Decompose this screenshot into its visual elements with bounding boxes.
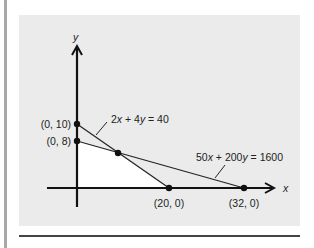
point-20-0 xyxy=(166,185,172,191)
point-0-8 xyxy=(74,138,80,144)
point-label-0-10: (0, 10) xyxy=(41,118,71,130)
point-0-10 xyxy=(74,121,80,127)
y-axis-label: y xyxy=(72,31,79,43)
equation-label-1: 2x + 4y = 40 xyxy=(111,113,169,125)
point-label-32-0: (32, 0) xyxy=(229,197,259,209)
x-axis-label: x xyxy=(282,182,289,194)
point-intersection xyxy=(115,150,121,156)
linear-programming-graph: x y (0, 10) (0, 8) (20, 0) (32, 0) 2x + … xyxy=(0,0,314,248)
equation-label-2: 50x + 200y = 1600 xyxy=(196,151,283,163)
leader-line-1 xyxy=(96,122,107,135)
point-label-20-0: (20, 0) xyxy=(154,197,184,209)
point-32-0 xyxy=(241,185,247,191)
feasible-region xyxy=(77,141,169,188)
leader-line-2 xyxy=(215,165,225,178)
point-label-0-8: (0, 8) xyxy=(46,135,71,147)
